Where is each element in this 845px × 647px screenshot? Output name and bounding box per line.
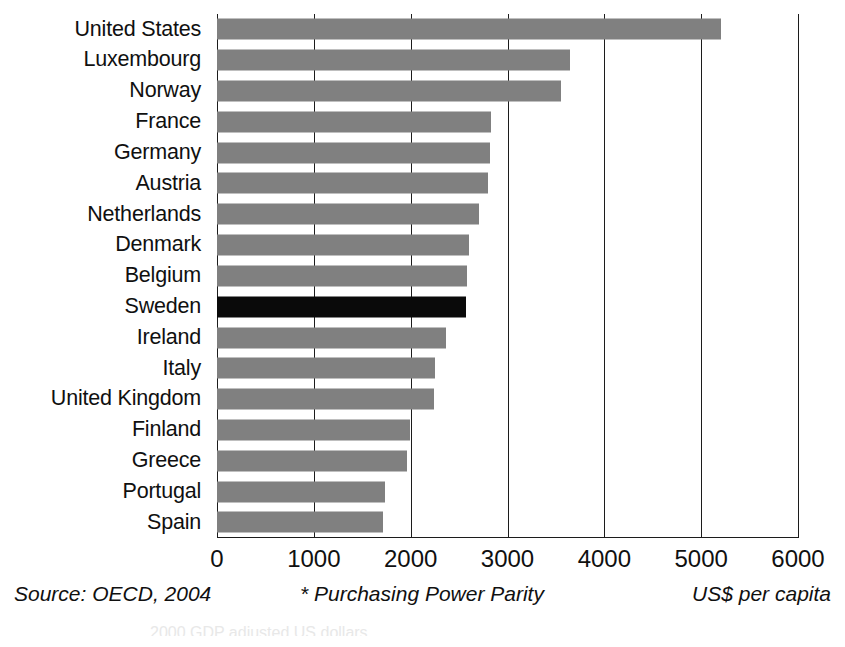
bar	[217, 111, 491, 132]
category-label: Luxembourg	[0, 45, 201, 76]
category-label: Austria	[0, 168, 201, 199]
bar-row: Austria	[0, 168, 845, 199]
bar-row: Norway	[0, 76, 845, 107]
bar	[217, 419, 410, 440]
bar-row: Luxembourg	[0, 45, 845, 76]
footer-unit-label: US$ per capita	[692, 580, 831, 608]
category-label: Finland	[0, 415, 201, 446]
bar	[217, 19, 721, 40]
bar-highlighted	[217, 296, 466, 317]
bar-track	[217, 507, 798, 538]
bar-row: Spain	[0, 507, 845, 538]
bar	[217, 389, 434, 410]
category-label: Ireland	[0, 322, 201, 353]
bar	[217, 173, 488, 194]
footer-source-label: Source: OECD, 2004	[14, 580, 211, 608]
bar-row: United States	[0, 14, 845, 45]
x-tick-label-5000: 5000	[674, 545, 727, 573]
x-tick-label-0: 0	[210, 545, 223, 573]
bar-track	[217, 168, 798, 199]
bar	[217, 265, 467, 286]
footer-ppp-note: * Purchasing Power Parity	[300, 580, 544, 608]
category-label: Belgium	[0, 261, 201, 292]
category-label: Germany	[0, 137, 201, 168]
bar	[217, 450, 407, 471]
bar-track	[217, 199, 798, 230]
bar	[217, 235, 469, 256]
bar-track	[217, 322, 798, 353]
footer-cut-caption: 2000 GDP adjusted US dollars	[150, 624, 750, 636]
bar-track	[217, 261, 798, 292]
bar-rows: United StatesLuxembourgNorwayFranceGerma…	[0, 14, 845, 538]
bar-row: Germany	[0, 137, 845, 168]
x-tick-label-2000: 2000	[384, 545, 437, 573]
bar-row: Belgium	[0, 261, 845, 292]
category-label: Sweden	[0, 291, 201, 322]
bar-track	[217, 14, 798, 45]
category-label: United States	[0, 14, 201, 45]
bar-row: Ireland	[0, 322, 845, 353]
bar-track	[217, 137, 798, 168]
category-label: France	[0, 106, 201, 137]
bar	[217, 50, 570, 71]
bar-row: Italy	[0, 353, 845, 384]
category-label: Netherlands	[0, 199, 201, 230]
category-label: Portugal	[0, 476, 201, 507]
bar-track	[217, 291, 798, 322]
bar-row: Netherlands	[0, 199, 845, 230]
bar-row: France	[0, 106, 845, 137]
bar	[217, 512, 383, 533]
bar-chart: United StatesLuxembourgNorwayFranceGerma…	[0, 0, 845, 647]
x-axis-tick-labels: 0100020003000400050006000	[0, 545, 845, 575]
bar-row: Finland	[0, 415, 845, 446]
bar-track	[217, 230, 798, 261]
bar-row: Portugal	[0, 476, 845, 507]
bar-track	[217, 45, 798, 76]
category-label: United Kingdom	[0, 384, 201, 415]
bar-track	[217, 106, 798, 137]
bar	[217, 142, 490, 163]
x-tick-label-6000: 6000	[771, 545, 824, 573]
category-label: Norway	[0, 76, 201, 107]
bar-track	[217, 384, 798, 415]
bar-row: United Kingdom	[0, 384, 845, 415]
bar	[217, 481, 385, 502]
bar-track	[217, 476, 798, 507]
category-label: Italy	[0, 353, 201, 384]
chart-footer: Source: OECD, 2004 * Purchasing Power Pa…	[0, 580, 845, 612]
x-tick-label-4000: 4000	[578, 545, 631, 573]
category-label: Denmark	[0, 230, 201, 261]
x-tick-label-3000: 3000	[481, 545, 534, 573]
bar-row: Greece	[0, 445, 845, 476]
x-tick-label-1000: 1000	[287, 545, 340, 573]
bar-row: Denmark	[0, 230, 845, 261]
bar	[217, 358, 435, 379]
bar	[217, 81, 561, 102]
category-label: Spain	[0, 507, 201, 538]
bar	[217, 204, 479, 225]
bar-row: Sweden	[0, 291, 845, 322]
bar-track	[217, 353, 798, 384]
bar-track	[217, 76, 798, 107]
bar-track	[217, 445, 798, 476]
bar	[217, 327, 446, 348]
category-label: Greece	[0, 445, 201, 476]
bar-track	[217, 415, 798, 446]
